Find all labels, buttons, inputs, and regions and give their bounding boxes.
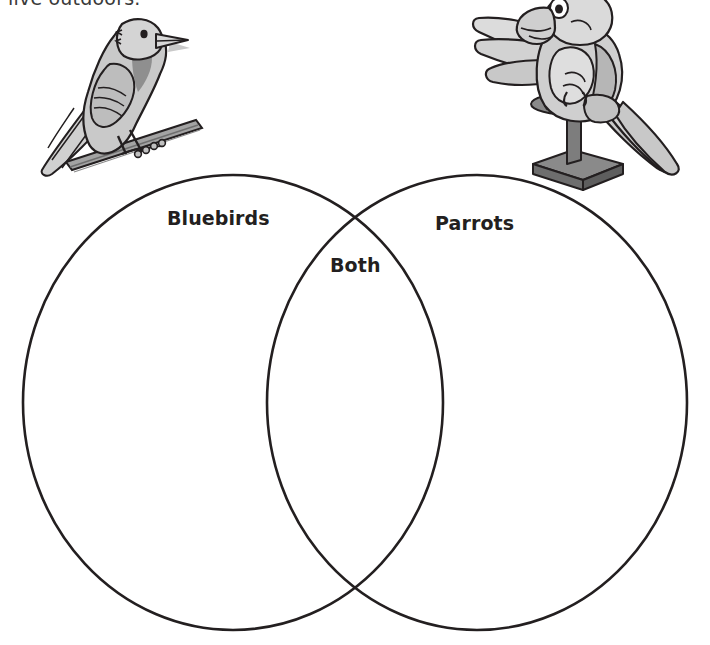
venn-label-bluebirds: Bluebirds bbox=[167, 207, 270, 229]
venn-label-parrots: Parrots bbox=[435, 212, 514, 234]
venn-diagram bbox=[0, 0, 710, 645]
venn-right-circle bbox=[267, 175, 687, 630]
venn-label-both: Both bbox=[330, 254, 381, 276]
venn-left-circle bbox=[23, 175, 443, 630]
